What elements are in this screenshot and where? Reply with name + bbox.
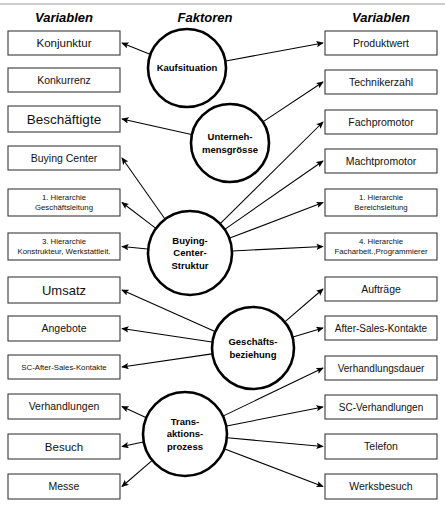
- factor-variable-diagram: KonjunkturKonkurrenzBeschäftigteBuying C…: [0, 0, 445, 516]
- variable-label: 4. Hierarchie: [359, 237, 403, 246]
- factor-label: prozess: [167, 441, 203, 452]
- connector-transaktionsprozess-to-telefon: [227, 438, 323, 447]
- column-header-left: Variablen: [35, 10, 93, 25]
- variable-box-hierarchie-4-facharbeiter[interactable]: 4. HierarchieFacharbeit.,Programmierer: [325, 233, 437, 260]
- variable-box-verhandlungsdauer[interactable]: Verhandlungsdauer: [325, 356, 437, 380]
- variable-box-hierarchie-1-geschaeftsleitung[interactable]: 1. HierarchieGeschäftsleitung: [8, 189, 120, 216]
- connector-geschaeftsbeziehung-to-auftraege: [285, 289, 323, 322]
- connector-unternehmensgroesse-to-beschaeftigte: [122, 119, 191, 135]
- connector-buying-center-struktur-to-hierarchie-1-geschaeftsleitung: [122, 203, 156, 229]
- variable-label: Verhandlungen: [29, 400, 100, 412]
- variable-label: Produktwert: [353, 37, 409, 49]
- variable-box-angebote[interactable]: Angebote: [8, 316, 120, 341]
- variable-box-machtpromotor[interactable]: Machtpromotor: [325, 149, 437, 173]
- variable-box-besuch[interactable]: Besuch: [8, 434, 120, 459]
- variable-label: 1. Hierarchie: [42, 193, 86, 202]
- variable-label: SC-Verhandlungen: [339, 402, 424, 413]
- variable-label: Konstrukteur, Werkstattleit.: [17, 247, 110, 256]
- variable-box-beschaeftigte[interactable]: Beschäftigte: [8, 106, 120, 132]
- connector-transaktionsprozess-to-messe: [122, 461, 152, 487]
- variable-box-produktwert[interactable]: Produktwert: [325, 31, 437, 55]
- factor-label: aktions-: [167, 428, 203, 439]
- variable-box-fachpromotor[interactable]: Fachpromotor: [325, 110, 437, 134]
- variable-label: Facharbeit.,Programmierer: [334, 247, 428, 256]
- variable-box-werksbesuch[interactable]: Werksbesuch: [325, 474, 437, 499]
- variable-box-konjunktur[interactable]: Konjunktur: [8, 31, 120, 55]
- variable-box-messe[interactable]: Messe: [8, 474, 120, 499]
- variable-box-konkurrenz[interactable]: Konkurrenz: [8, 68, 120, 92]
- variable-label: Besuch: [45, 441, 83, 453]
- variable-box-umsatz[interactable]: Umsatz: [8, 277, 120, 303]
- variable-label: Aufträge: [361, 283, 401, 295]
- connector-geschaeftsbeziehung-to-sc-after-sales-kontakte: [122, 354, 212, 367]
- connector-geschaeftsbeziehung-to-after-sales-kontakte: [293, 328, 323, 337]
- variable-box-buying-center[interactable]: Buying Center: [8, 146, 120, 170]
- factor-label: Struktur: [172, 260, 209, 271]
- variable-label: Technikerzahl: [349, 76, 413, 88]
- variable-label: Konjunktur: [37, 37, 92, 49]
- factor-label: Unterneh-: [208, 131, 253, 142]
- variable-box-auftraege[interactable]: Aufträge: [325, 277, 437, 301]
- connector-transaktionsprozess-to-werksbesuch: [225, 449, 323, 487]
- connector-buying-center-struktur-to-hierarchie-4-facharbeiter: [232, 247, 323, 251]
- column-header-right: Variablen: [352, 10, 410, 25]
- variable-box-telefon[interactable]: Telefon: [325, 434, 437, 459]
- factor-label: Trans-: [171, 416, 200, 427]
- variable-label: Verhandlungsdauer: [338, 363, 425, 374]
- connector-buying-center-struktur-to-hierarchie-1-bereichsleitung: [230, 203, 323, 239]
- factor-circle-kaufsituation[interactable]: Kaufsituation: [148, 29, 226, 107]
- variable-label: Machtpromotor: [346, 155, 417, 167]
- variable-box-sc-verhandlungen[interactable]: SC-Verhandlungen: [325, 395, 437, 419]
- variable-label: Bereichsleitung: [354, 203, 407, 212]
- connector-buying-center-struktur-to-hierarchie-3-konstrukteur: [122, 247, 148, 250]
- variable-label: Werksbesuch: [349, 480, 413, 492]
- connector-buying-center-struktur-to-buying-center: [122, 158, 165, 219]
- variable-label: Umsatz: [42, 283, 86, 298]
- variable-label: Angebote: [42, 322, 87, 334]
- variable-box-hierarchie-3-konstrukteur[interactable]: 3. HierarchieKonstrukteur, Werkstattleit…: [8, 233, 120, 260]
- factor-label: Geschäfts-: [228, 336, 277, 347]
- connector-geschaeftsbeziehung-to-umsatz: [122, 290, 215, 331]
- factor-circle-buying-center-struktur[interactable]: Buying-Center-Struktur: [148, 211, 232, 295]
- variable-label: 1. Hierarchie: [359, 193, 403, 202]
- connector-transaktionsprozess-to-verhandlungen: [122, 407, 146, 418]
- variable-label: Fachpromotor: [348, 116, 414, 128]
- connector-geschaeftsbeziehung-to-angebote: [122, 329, 212, 342]
- variable-label: Konkurrenz: [37, 74, 91, 86]
- variable-label: Messe: [49, 480, 80, 492]
- factor-circle-geschaeftsbeziehung[interactable]: Geschäfts-beziehung: [212, 307, 294, 389]
- factor-label: mensgrösse: [202, 144, 258, 155]
- connector-transaktionsprozess-to-besuch: [122, 442, 143, 446]
- factor-label: Buying-: [172, 235, 207, 246]
- connector-kaufsituation-to-konjunktur: [122, 43, 150, 54]
- factor-circle-unternehmensgroesse[interactable]: Unterneh-mensgrösse: [191, 104, 269, 182]
- variable-label: Beschäftigte: [27, 112, 101, 127]
- connector-unternehmensgroesse-to-technikerzahl: [263, 82, 323, 122]
- variable-label: Telefon: [364, 440, 398, 452]
- connector-kaufsituation-to-produktwert: [226, 43, 323, 61]
- factor-label: Center-: [173, 247, 206, 258]
- column-header-center: Faktoren: [178, 10, 233, 25]
- variable-box-technikerzahl[interactable]: Technikerzahl: [325, 70, 437, 94]
- variable-label: Buying Center: [31, 152, 98, 164]
- variable-label: After-Sales-Kontakte: [335, 323, 428, 334]
- factor-label: beziehung: [230, 349, 277, 360]
- variable-label: 3. Hierarchie: [42, 237, 86, 246]
- variable-box-sc-after-sales-kontakte[interactable]: SC-After-Sales-Kontakte: [8, 355, 120, 379]
- connector-transaktionsprozess-to-sc-verhandlungen: [227, 407, 323, 426]
- variable-box-hierarchie-1-bereichsleitung[interactable]: 1. HierarchieBereichsleitung: [325, 189, 437, 216]
- factor-circles-layer: KaufsituationUnterneh-mensgrösseBuying-C…: [143, 29, 294, 476]
- variable-box-verhandlungen[interactable]: Verhandlungen: [8, 394, 120, 419]
- variable-box-after-sales-kontakte[interactable]: After-Sales-Kontakte: [325, 316, 437, 340]
- variable-label: Geschäftsleitung: [35, 203, 93, 212]
- diagram-canvas: KonjunkturKonkurrenzBeschäftigteBuying C…: [0, 0, 445, 516]
- factor-circle-transaktionsprozess[interactable]: Trans-aktions-prozess: [143, 392, 227, 476]
- factor-label: Kaufsituation: [157, 62, 218, 73]
- variable-label: SC-After-Sales-Kontakte: [21, 363, 106, 372]
